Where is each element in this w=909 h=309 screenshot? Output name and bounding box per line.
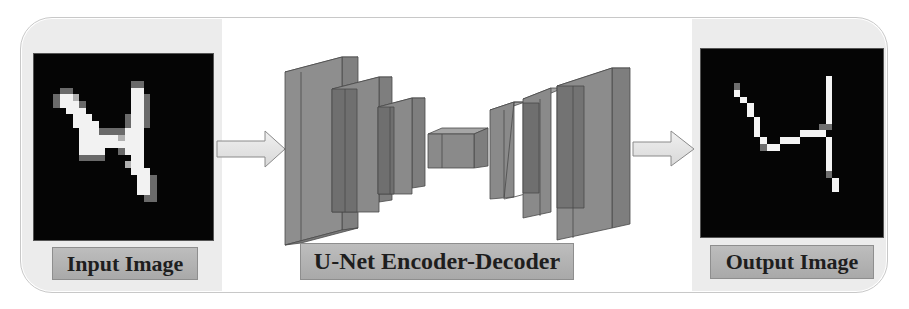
output-image-label: Output Image bbox=[710, 245, 874, 279]
arrow-input-to-network bbox=[217, 131, 285, 167]
arrow-network-to-output bbox=[633, 131, 694, 166]
decoder-block-1 bbox=[490, 102, 525, 199]
bottleneck-block bbox=[428, 128, 488, 168]
decoder-block-3 bbox=[557, 68, 630, 240]
unet-label: U-Net Encoder-Decoder bbox=[300, 243, 574, 280]
input-image-label: Input Image bbox=[52, 247, 198, 280]
encoder-block-3 bbox=[378, 98, 425, 194]
